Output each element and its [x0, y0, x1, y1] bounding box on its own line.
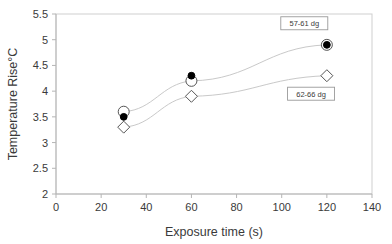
y-axis-tick-labels: 22.533.544.555.5	[33, 8, 48, 200]
marker-filled-circle	[120, 113, 127, 120]
y-tick-label: 2.5	[33, 162, 48, 174]
y-axis-title: Temperature Rise°C	[6, 48, 20, 161]
x-tick-label: 100	[273, 201, 291, 213]
marker-filled-circle	[323, 41, 330, 48]
annotation-box: 57-61 dg	[281, 17, 328, 30]
x-tick-label: 120	[318, 201, 336, 213]
chart-container: 020406080100120140 22.533.544.555.5 57-6…	[0, 0, 392, 244]
chart-svg: 020406080100120140 22.533.544.555.5 57-6…	[0, 0, 392, 244]
y-tick-label: 5	[42, 34, 48, 46]
annotation-box: 62-66 dg	[288, 87, 335, 100]
annotation-text: 57-61 dg	[289, 19, 319, 28]
x-tick-label: 140	[363, 201, 381, 213]
y-tick-label: 3.5	[33, 111, 48, 123]
x-tick-label: 80	[230, 201, 242, 213]
annotation-text: 62-66 dg	[296, 90, 326, 99]
x-tick-label: 60	[185, 201, 197, 213]
y-axis-ticks	[52, 14, 56, 194]
x-axis-ticks	[56, 194, 372, 198]
marker-filled-circle	[188, 72, 195, 79]
x-tick-label: 0	[53, 201, 59, 213]
y-tick-label: 5.5	[33, 8, 48, 20]
x-tick-label: 40	[140, 201, 152, 213]
y-tick-label: 4.5	[33, 59, 48, 71]
x-axis-title: Exposure time (s)	[165, 225, 263, 239]
x-axis-tick-labels: 020406080100120140	[53, 201, 381, 213]
x-tick-label: 20	[95, 201, 107, 213]
y-tick-label: 2	[42, 188, 48, 200]
y-tick-label: 4	[42, 85, 48, 97]
y-tick-label: 3	[42, 137, 48, 149]
